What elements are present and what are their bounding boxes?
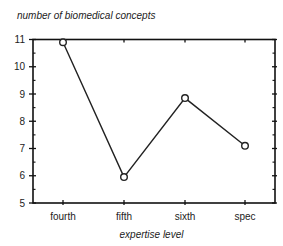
data-point-marker xyxy=(121,174,128,181)
x-axis-ticks: fourthfifthsixthspec xyxy=(50,40,255,223)
data-point-marker xyxy=(182,95,189,102)
y-tick-label: 6 xyxy=(19,170,25,181)
y-axis-ticks: 567891011 xyxy=(14,34,277,209)
y-tick-label: 5 xyxy=(19,198,25,209)
x-tick-label: sixth xyxy=(175,211,196,222)
line-chart: 567891011 fourthfifthsixthspec xyxy=(0,0,283,246)
y-tick-label: 8 xyxy=(19,116,25,127)
x-tick-label: spec xyxy=(234,211,255,222)
data-series xyxy=(60,39,249,180)
y-tick-label: 10 xyxy=(14,61,26,72)
y-tick-label: 11 xyxy=(15,34,26,45)
y-tick-label: 9 xyxy=(19,89,25,100)
data-point-marker xyxy=(60,39,67,46)
x-tick-label: fourth xyxy=(50,211,76,222)
y-tick-label: 7 xyxy=(19,143,25,154)
plot-frame xyxy=(33,40,275,204)
data-point-marker xyxy=(242,142,249,149)
x-axis-label: expertise level xyxy=(0,229,283,240)
x-tick-label: fifth xyxy=(116,211,132,222)
